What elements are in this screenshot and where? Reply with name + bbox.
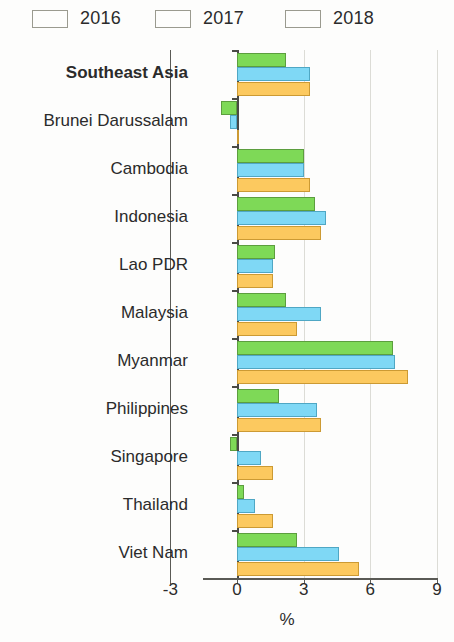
category-tick — [232, 194, 238, 196]
x-tick-label-9: 9 — [432, 580, 441, 600]
x-axis-title-text: % — [279, 610, 294, 629]
category-axis-labels: Southeast AsiaBrunei DarussalamCambodiaI… — [0, 50, 196, 580]
category-tick — [232, 338, 238, 340]
bar-chart: 2016 2017 2018 Southeast AsiaBrunei Daru… — [0, 0, 454, 642]
bar-thailand-2016[interactable] — [237, 485, 244, 499]
category-tick — [232, 434, 238, 436]
legend-item-2018[interactable]: 2018 — [285, 8, 374, 29]
bar-myanmar-2018[interactable] — [237, 370, 408, 384]
bar-southeast-asia-2017[interactable] — [237, 67, 310, 81]
category-tick — [232, 50, 238, 52]
bar-brunei-darussalam-2017[interactable] — [230, 115, 237, 129]
category-tick — [232, 146, 238, 148]
category-label-viet-nam: Viet Nam — [0, 543, 188, 563]
bar-singapore-2018[interactable] — [237, 466, 273, 480]
bar-brunei-darussalam-2018[interactable] — [237, 130, 239, 144]
bar-philippines-2017[interactable] — [237, 403, 317, 417]
bar-malaysia-2018[interactable] — [237, 322, 297, 336]
bar-singapore-2017[interactable] — [237, 451, 261, 465]
category-tick — [232, 530, 238, 532]
gridline-9 — [437, 50, 438, 578]
bar-indonesia-2018[interactable] — [237, 226, 321, 240]
x-tick-label--3: -3 — [163, 580, 178, 600]
category-label-southeast-asia: Southeast Asia — [0, 63, 188, 83]
x-axis-title: % — [0, 610, 454, 630]
bar-southeast-asia-2016[interactable] — [237, 53, 286, 67]
category-label-indonesia: Indonesia — [0, 207, 188, 227]
gridline-6 — [370, 50, 371, 578]
bar-thailand-2018[interactable] — [237, 514, 273, 528]
legend-label-2018: 2018 — [333, 8, 374, 29]
bar-viet-nam-2016[interactable] — [237, 533, 297, 547]
category-label-philippines: Philippines — [0, 399, 188, 419]
bar-myanmar-2017[interactable] — [237, 355, 395, 369]
category-tick — [232, 386, 238, 388]
category-label-malaysia: Malaysia — [0, 303, 188, 323]
category-label-thailand: Thailand — [0, 495, 188, 515]
bar-lao-pdr-2017[interactable] — [237, 259, 273, 273]
bar-malaysia-2017[interactable] — [237, 307, 321, 321]
x-axis-tick-labels: -30369 — [0, 580, 454, 610]
bar-philippines-2018[interactable] — [237, 418, 321, 432]
bar-southeast-asia-2018[interactable] — [237, 82, 310, 96]
bar-cambodia-2016[interactable] — [237, 149, 304, 163]
category-tick — [232, 98, 238, 100]
bar-malaysia-2016[interactable] — [237, 293, 286, 307]
category-tick — [232, 242, 238, 244]
category-label-lao-pdr: Lao PDR — [0, 255, 188, 275]
category-label-myanmar: Myanmar — [0, 351, 188, 371]
legend-item-2016[interactable]: 2016 — [32, 8, 121, 29]
legend-swatch-2018 — [285, 10, 321, 28]
bar-thailand-2017[interactable] — [237, 499, 255, 513]
bar-myanmar-2016[interactable] — [237, 341, 393, 355]
chart-legend: 2016 2017 2018 — [0, 0, 454, 48]
bar-cambodia-2018[interactable] — [237, 178, 310, 192]
bar-indonesia-2017[interactable] — [237, 211, 326, 225]
legend-swatch-2017 — [155, 10, 191, 28]
bar-viet-nam-2018[interactable] — [237, 562, 359, 576]
bar-singapore-2016[interactable] — [230, 437, 237, 451]
bar-viet-nam-2017[interactable] — [237, 547, 339, 561]
category-tick — [232, 290, 238, 292]
category-label-brunei-darussalam: Brunei Darussalam — [0, 111, 188, 131]
bar-indonesia-2016[interactable] — [237, 197, 315, 211]
plot-area: Southeast AsiaBrunei DarussalamCambodiaI… — [0, 50, 454, 580]
bar-lao-pdr-2016[interactable] — [237, 245, 275, 259]
bar-cambodia-2017[interactable] — [237, 163, 304, 177]
category-label-cambodia: Cambodia — [0, 159, 188, 179]
bar-brunei-darussalam-2016[interactable] — [221, 101, 237, 115]
category-tick — [232, 482, 238, 484]
x-tick-label-6: 6 — [366, 580, 375, 600]
legend-swatch-2016 — [32, 10, 68, 28]
x-tick-label-3: 3 — [299, 580, 308, 600]
legend-label-2016: 2016 — [80, 8, 121, 29]
x-tick-label-0: 0 — [232, 580, 241, 600]
bar-lao-pdr-2018[interactable] — [237, 274, 273, 288]
category-label-singapore: Singapore — [0, 447, 188, 467]
bar-philippines-2016[interactable] — [237, 389, 279, 403]
legend-label-2017: 2017 — [203, 8, 244, 29]
legend-item-2017[interactable]: 2017 — [155, 8, 244, 29]
